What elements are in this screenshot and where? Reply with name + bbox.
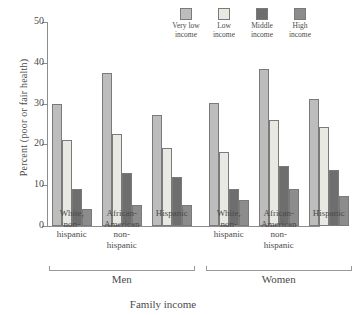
y-tick-label: 50: [34, 15, 44, 26]
category-label-line: non-: [253, 229, 305, 240]
category-label-line: White,: [46, 208, 98, 219]
y-tick-label: 40: [34, 56, 44, 67]
category-label: White,non-hispanic: [46, 208, 98, 240]
legend-label-line: income: [168, 31, 204, 40]
category-label: White,non-hispanic: [203, 208, 255, 240]
y-axis-title: Percent (poor or fair health): [18, 18, 29, 218]
legend-item: Middleincome: [244, 8, 280, 39]
category-label-line: Hispanic: [303, 208, 355, 219]
legend-label: Highincome: [282, 22, 318, 39]
category-label-line: White,: [203, 208, 255, 219]
y-tick-label: 0: [39, 219, 44, 230]
supergroup-bracket: [206, 266, 352, 271]
category-label-line: non-: [96, 229, 148, 240]
category-label-line: African-: [253, 208, 305, 219]
supergroup-label: Women: [206, 273, 352, 285]
category-label-line: African-: [96, 208, 148, 219]
category-label: African-Americannon-hispanic: [253, 208, 305, 250]
legend-label-line: income: [282, 31, 318, 40]
legend-label: Middleincome: [244, 22, 280, 39]
legend-swatch: [180, 8, 192, 20]
legend-swatch: [218, 8, 230, 20]
bar: [309, 99, 319, 226]
bar: [259, 69, 269, 226]
legend-item: Highincome: [282, 8, 318, 39]
category-label-line: hispanic: [96, 240, 148, 251]
x-axis-title: Family income: [0, 298, 326, 310]
legend-label-line: income: [206, 31, 242, 40]
category-label-line: American: [96, 219, 148, 230]
legend-label: Lowincome: [206, 22, 242, 39]
category-label-line: hispanic: [253, 240, 305, 251]
legend-label-line: income: [244, 31, 280, 40]
category-label-line: American: [253, 219, 305, 230]
supergroup-bracket: [49, 266, 195, 271]
category-label-line: hispanic: [203, 229, 255, 240]
category-label-line: non-: [46, 219, 98, 230]
category-label: Hispanic: [146, 208, 198, 219]
y-tick-label: 10: [34, 178, 44, 189]
category-label: Hispanic: [303, 208, 355, 219]
legend-item: Lowincome: [206, 8, 242, 39]
category-label-line: non-: [203, 219, 255, 230]
legend-swatch: [294, 8, 306, 20]
bar: [102, 73, 112, 226]
legend-item: Very lowincome: [168, 8, 204, 39]
category-label-line: hispanic: [46, 229, 98, 240]
chart-legend: Very lowincomeLowincomeMiddleincomeHighi…: [168, 8, 320, 54]
y-tick-label: 30: [34, 97, 44, 108]
legend-swatch: [256, 8, 268, 20]
category-label: African-Americannon-hispanic: [96, 208, 148, 250]
category-label-line: Hispanic: [146, 208, 198, 219]
supergroup-label: Men: [49, 273, 195, 285]
y-tick-label: 20: [34, 137, 44, 148]
bar: [172, 177, 182, 226]
legend-label: Very lowincome: [168, 22, 204, 39]
